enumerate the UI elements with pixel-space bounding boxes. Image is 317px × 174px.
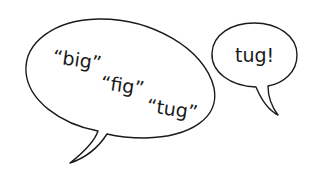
exclamation-tug: tug!	[235, 44, 274, 66]
large-speech-bubble: “big” “fig” “tug”	[26, 19, 215, 163]
small-speech-bubble: tug!	[212, 23, 297, 115]
speech-bubbles-illustration: “big” “fig” “tug” tug!	[0, 0, 317, 174]
